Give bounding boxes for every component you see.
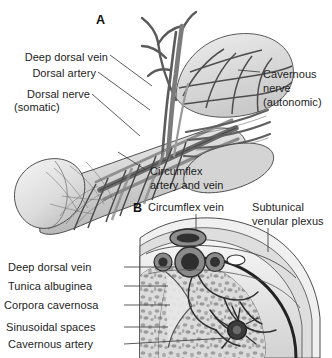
label-cavernous-nerve-line2: nerve [263,82,291,95]
label-dorsal-artery: Dorsal artery [22,67,96,80]
label-deep-dorsal-vein-b: Deep dorsal vein [8,261,120,274]
anatomical-figure: A B Deep dorsal vein Dorsal artery Dorsa… [0,0,332,358]
dorsal-artery-vessel-b-left [154,253,172,271]
leader-dorsal-artery [98,72,150,110]
panel-letter-a: A [96,13,105,27]
deep-dorsal-vein-vessel-b [175,247,205,277]
label-sinusoidal-spaces: Sinusoidal spaces [6,321,120,334]
label-cavernous-nerve-autonomic: (autonomic) [263,96,322,109]
label-dorsal-nerve: Dorsal nerve [14,88,90,101]
label-tunica-albuginea: Tunica albuginea [8,280,120,293]
panel-letter-b: B [133,201,142,215]
label-corpora-cavernosa: Corpora cavernosa [4,299,120,312]
label-circumflex-artery-vein: Circumflex [150,165,202,178]
leader-dorsal-nerve [92,94,140,136]
leader-deep-dorsal-vein [110,55,152,86]
dorsal-nerve-vessel-b [227,255,245,265]
label-subtunical-venular-plexus-line2: venular plexus [252,215,324,228]
panel-b-art [124,214,320,358]
label-circumflex-vein: Circumflex vein [148,201,224,214]
circumflex-vein-vessel [170,229,206,247]
label-dorsal-nerve-somatic: (somatic) [14,101,90,114]
label-subtunical-venular-plexus: Subtunical [252,201,304,214]
dorsal-artery-vessel-b-right [206,253,225,272]
label-deep-dorsal-vein: Deep dorsal vein [22,51,108,64]
label-circumflex-artery-vein-line2: artery and vein [150,179,224,192]
label-cavernous-nerve: Cavernous [263,68,317,81]
label-cavernous-artery: Cavernous artery [8,338,120,351]
